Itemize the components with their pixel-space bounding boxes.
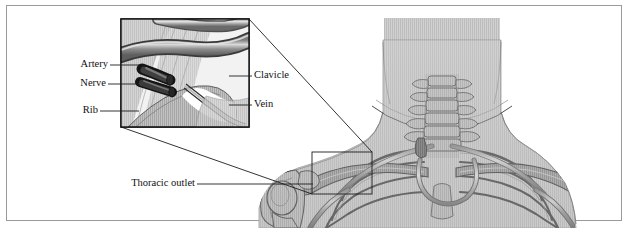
label-vein: Vein: [254, 99, 273, 110]
shoulder-girdle-right: [581, 172, 617, 228]
label-clavicle: Clavicle: [254, 70, 289, 81]
magnified-detail-box: [121, 19, 249, 128]
label-artery: Artery: [46, 59, 108, 70]
label-rib: Rib: [36, 105, 98, 116]
label-thoracic-outlet: Thoracic outlet: [85, 178, 195, 189]
figure-root: Artery Nerve Rib Clavicle Vein Thoracic …: [0, 0, 629, 228]
label-nerve: Nerve: [44, 78, 106, 89]
torso-figure: [259, 18, 618, 228]
